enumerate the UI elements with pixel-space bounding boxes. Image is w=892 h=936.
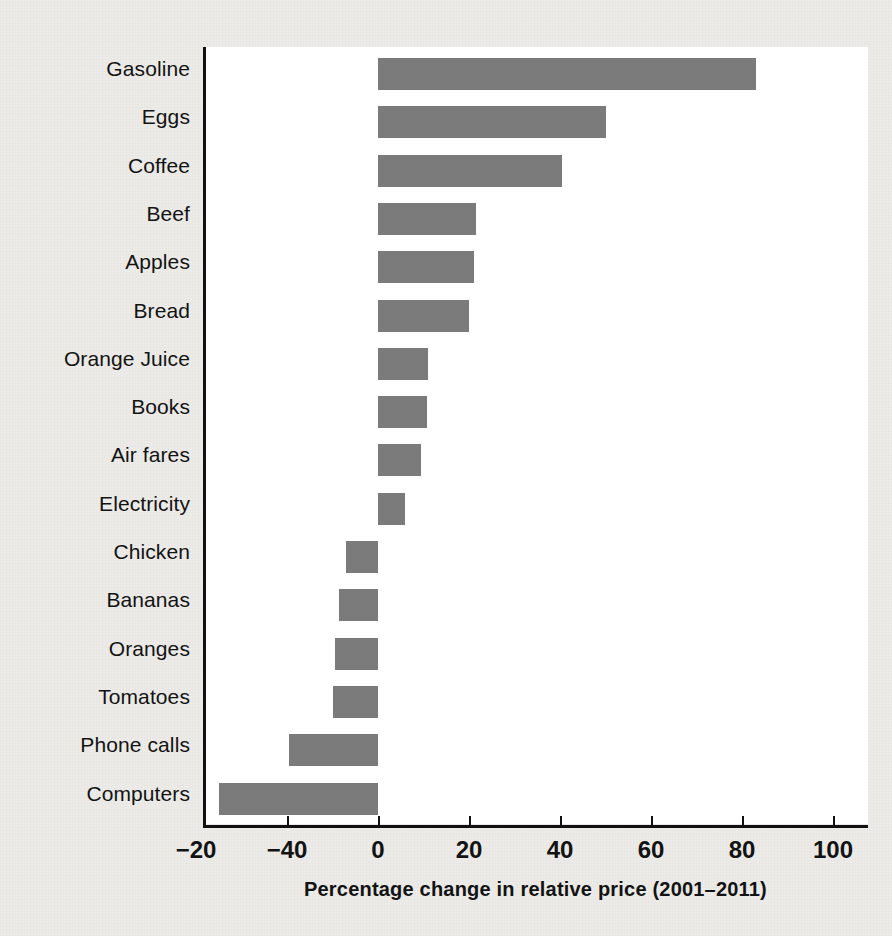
- bar-row: Tomatoes: [0, 679, 892, 725]
- category-label-electricity: Electricity: [4, 492, 190, 516]
- bar-bananas: [339, 589, 378, 621]
- x-tick-1: [287, 816, 289, 828]
- x-tick-label-6: 80: [702, 836, 782, 864]
- zero-axis-line: [203, 47, 206, 827]
- x-tick-2: [378, 816, 380, 828]
- bar-gasoline: [378, 58, 756, 90]
- bar-tomatoes: [333, 686, 379, 718]
- bar-row: Phone calls: [0, 727, 892, 773]
- bar-computers: [219, 783, 378, 815]
- category-label-gasoline: Gasoline: [4, 57, 190, 81]
- category-label-bananas: Bananas: [4, 588, 190, 612]
- bar-row: Books: [0, 389, 892, 435]
- x-tick-label-5: 60: [611, 836, 691, 864]
- x-tick-label-4: 40: [520, 836, 600, 864]
- bar-bread: [378, 300, 469, 332]
- category-label-computers: Computers: [4, 782, 190, 806]
- bar-row: Orange Juice: [0, 341, 892, 387]
- category-label-beef: Beef: [4, 202, 190, 226]
- x-tick-7: [833, 816, 835, 828]
- category-label-coffee: Coffee: [4, 154, 190, 178]
- category-label-air-fares: Air fares: [4, 443, 190, 467]
- bar-row: Computers: [0, 776, 892, 822]
- x-tick-6: [742, 816, 744, 828]
- bar-phone-calls: [289, 734, 378, 766]
- bar-coffee: [378, 155, 562, 187]
- x-tick-label-0: −20: [156, 836, 236, 864]
- category-label-oranges: Oranges: [4, 637, 190, 661]
- category-label-bread: Bread: [4, 299, 190, 323]
- bar-row: Bananas: [0, 582, 892, 628]
- bar-electricity: [378, 493, 405, 525]
- x-tick-label-2: 0: [338, 836, 418, 864]
- category-label-books: Books: [4, 395, 190, 419]
- x-axis-title: Percentage change in relative price (200…: [203, 878, 868, 901]
- bar-row: Apples: [0, 244, 892, 290]
- bar-row: Bread: [0, 293, 892, 339]
- x-tick-5: [651, 816, 653, 828]
- category-label-orange-juice: Orange Juice: [4, 347, 190, 371]
- bar-orange-juice: [378, 348, 428, 380]
- x-tick-label-3: 20: [429, 836, 509, 864]
- bar-row: Eggs: [0, 99, 892, 145]
- bar-beef: [378, 203, 476, 235]
- x-axis-line: [203, 825, 868, 828]
- bar-row: Beef: [0, 196, 892, 242]
- x-axis-left-cap: [203, 816, 205, 826]
- category-label-eggs: Eggs: [4, 105, 190, 129]
- category-label-phone-calls: Phone calls: [4, 733, 190, 757]
- bar-row: Air fares: [0, 437, 892, 483]
- x-tick-3: [469, 816, 471, 828]
- x-tick-label-7: 100: [793, 836, 873, 864]
- bar-oranges: [335, 638, 378, 670]
- bar-chicken: [346, 541, 378, 573]
- bar-row: Coffee: [0, 148, 892, 194]
- bar-eggs: [378, 106, 606, 138]
- category-label-chicken: Chicken: [4, 540, 190, 564]
- bar-row: Electricity: [0, 486, 892, 532]
- x-tick-label-1: −40: [247, 836, 327, 864]
- bar-books: [378, 396, 427, 428]
- bar-row: Oranges: [0, 631, 892, 677]
- bar-row: Chicken: [0, 534, 892, 580]
- chart-figure: GasolineEggsCoffeeBeefApplesBreadOrange …: [0, 0, 892, 936]
- category-label-tomatoes: Tomatoes: [4, 685, 190, 709]
- category-label-apples: Apples: [4, 250, 190, 274]
- bar-row: Gasoline: [0, 51, 892, 97]
- bar-air-fares: [378, 444, 421, 476]
- x-tick-4: [560, 816, 562, 828]
- bar-apples: [378, 251, 474, 283]
